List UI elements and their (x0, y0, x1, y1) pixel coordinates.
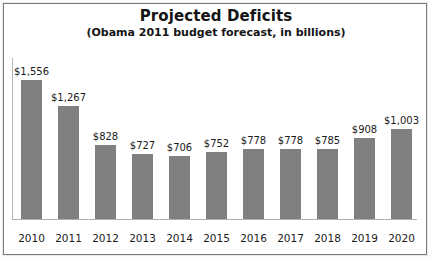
x-axis-tick-label: 2018 (307, 232, 348, 244)
x-axis-tick-label: 2020 (381, 232, 422, 244)
bar-group: $752 (198, 58, 235, 219)
bar[interactable] (354, 138, 375, 219)
bar-group: $785 (309, 58, 346, 219)
bar-group: $727 (124, 58, 161, 219)
x-axis-tick-label: 2016 (233, 232, 274, 244)
bar[interactable] (391, 129, 412, 219)
x-axis-tick-label: 2014 (159, 232, 200, 244)
bar[interactable] (243, 149, 264, 219)
bar-value-label: $778 (233, 135, 274, 146)
bar-value-label: $908 (344, 124, 385, 135)
x-axis-tick-label: 2015 (196, 232, 237, 244)
bar-value-label: $1,003 (381, 115, 422, 126)
bar[interactable] (132, 154, 153, 219)
x-axis-line (12, 219, 417, 220)
bar-group: $778 (272, 58, 309, 219)
bar-group: $1,003 (383, 58, 420, 219)
bar-value-label: $828 (85, 131, 126, 142)
x-axis-tick-label: 2017 (270, 232, 311, 244)
bar-group: $778 (235, 58, 272, 219)
bar[interactable] (95, 145, 116, 219)
bar-value-label: $706 (159, 142, 200, 153)
bar[interactable] (280, 149, 301, 219)
bar-value-label: $1,556 (11, 66, 52, 77)
chart-title: Projected Deficits (0, 7, 432, 25)
bar-group: $828 (87, 58, 124, 219)
bar-value-label: $727 (122, 140, 163, 151)
bar[interactable] (317, 149, 338, 219)
bar-group: $908 (346, 58, 383, 219)
bar[interactable] (169, 156, 190, 219)
x-axis-tick-label: 2019 (344, 232, 385, 244)
chart-subtitle: (Obama 2011 budget forecast, in billions… (0, 26, 432, 39)
bar[interactable] (206, 152, 227, 219)
x-axis-tick-label: 2013 (122, 232, 163, 244)
bar-value-label: $785 (307, 135, 348, 146)
x-axis-tick-label: 2010 (11, 232, 52, 244)
bar-value-label: $778 (270, 135, 311, 146)
bar[interactable] (21, 80, 42, 219)
bar-group: $1,556 (13, 58, 50, 219)
bar-value-label: $1,267 (48, 92, 89, 103)
x-axis-tick-label: 2012 (85, 232, 126, 244)
x-axis-tick-label: 2011 (48, 232, 89, 244)
bar[interactable] (58, 106, 79, 219)
chart-figure: Projected Deficits (Obama 2011 budget fo… (0, 0, 432, 260)
plot-area: $1,556$1,267$828$727$706$752$778$778$785… (13, 58, 417, 219)
bar-value-label: $752 (196, 138, 237, 149)
bar-group: $706 (161, 58, 198, 219)
bar-group: $1,267 (50, 58, 87, 219)
